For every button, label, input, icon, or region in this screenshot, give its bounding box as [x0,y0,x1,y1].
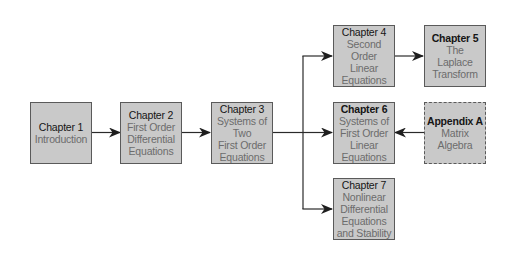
node-subtitle-line: Second [347,38,381,50]
node-chapter-7: Chapter 7 Nonlinear Differential Equatio… [333,178,395,240]
node-subtitle-line: Equations [342,151,387,163]
node-title: Chapter 6 [341,103,388,115]
node-title: Chapter 5 [432,32,479,44]
node-title: Chapter 7 [342,179,386,191]
node-chapter-2: Chapter 2 First Order Differential Equat… [120,102,182,164]
node-subtitle-line: and Stability [337,227,392,239]
node-subtitle-line: Equations [129,145,174,157]
node-chapter-6: Chapter 6 Systems of First Order Linear … [333,102,395,164]
node-subtitle-line: Laplace [437,56,472,68]
node-chapter-1: Chapter 1 Introduction [30,102,92,164]
node-subtitle-line: Matrix [441,127,468,139]
node-chapter-3: Chapter 3 Systems of Two First Order Equ… [211,102,273,164]
node-chapter-4: Chapter 4 Second Order Linear Equations [333,25,395,87]
node-subtitle-line: Differential [340,203,388,215]
node-subtitle-line: Transform [432,68,478,80]
node-subtitle-line: Systems of [217,115,267,127]
node-title: Chapter 1 [39,121,83,133]
chapter-dependency-diagram: Chapter 1 Introduction Chapter 2 First O… [0,0,514,261]
node-title: Appendix A [427,115,483,127]
node-subtitle-line: Equations [220,151,265,163]
node-subtitle-line: Nonlinear [342,191,385,203]
node-subtitle-line: Linear [350,62,378,74]
node-subtitle-line: Equations [342,74,387,86]
node-subtitle-line: Two [233,127,252,139]
node-title: Chapter 2 [129,109,173,121]
node-subtitle-line: The [446,44,464,56]
node-subtitle-line: Systems of [339,115,389,127]
node-subtitle-line: First Order [218,139,266,151]
node-subtitle-line: First Order [340,127,388,139]
node-title: Chapter 3 [220,103,264,115]
node-title: Chapter 4 [342,26,386,38]
node-subtitle-line: Order [351,50,377,62]
node-subtitle-line: Linear [350,139,378,151]
node-appendix-a: Appendix A Matrix Algebra [424,102,486,164]
node-subtitle-line: First Order [127,121,175,133]
node-subtitle-line: Equations [342,215,387,227]
node-subtitle-line: Algebra [438,139,473,151]
node-chapter-5: Chapter 5 The Laplace Transform [424,25,486,87]
node-subtitle-line: Introduction [35,133,87,145]
node-subtitle-line: Differential [127,133,175,145]
